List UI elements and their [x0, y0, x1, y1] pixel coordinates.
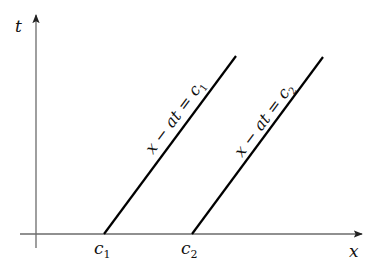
x-axis-label: x: [349, 241, 359, 261]
equation-label-1: x − at = c1: [141, 76, 210, 159]
tick-label-c2: c2: [181, 238, 198, 261]
characteristic-line-1: [104, 56, 236, 234]
equation-label-2: x − at = c2: [230, 79, 299, 162]
t-axis-label: t: [15, 16, 22, 36]
characteristic-line-2: [192, 57, 323, 234]
tick-label-c1: c1: [94, 238, 111, 261]
characteristics-diagram: t x c1 c2 x − at = c1 x − at = c2: [0, 0, 376, 269]
